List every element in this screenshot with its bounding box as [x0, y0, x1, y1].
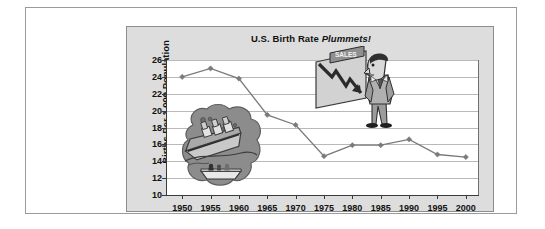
x-axis-tick-label: 1955 [201, 203, 221, 213]
page-frame: U.S. Birth Rate Plummets! Births Per 1,0… [25, 7, 517, 214]
data-point-marker [208, 66, 213, 71]
chart-panel: U.S. Birth Rate Plummets! Births Per 1,0… [126, 26, 494, 212]
x-axis-tick-label: 1995 [427, 203, 447, 213]
x-axis-tick-label: 1950 [172, 203, 192, 213]
x-axis-tick-label: 1960 [229, 203, 249, 213]
data-point-marker [406, 137, 411, 142]
y-axis-tick-label: 22 [152, 89, 162, 99]
birth-rate-line-series [166, 60, 479, 196]
screenshot-canvas: U.S. Birth Rate Plummets! Births Per 1,0… [0, 0, 545, 229]
chart-title-plain: U.S. Birth Rate [251, 33, 319, 44]
y-axis-tick-label: 24 [152, 72, 162, 82]
data-point-marker [180, 74, 185, 79]
x-axis-tick-label: 1965 [257, 203, 277, 213]
y-axis-tick-label: 20 [152, 106, 162, 116]
x-axis-tick-label: 1990 [399, 203, 419, 213]
y-axis-tick-labels: 262422201816141210 [141, 60, 162, 196]
sales-banner-label: SALES [335, 51, 357, 58]
chart-title: U.S. Birth Rate Plummets! [127, 33, 495, 44]
data-point-marker [435, 152, 440, 157]
x-axis-tick-label: 2000 [456, 203, 476, 213]
y-axis-tick-label: 12 [152, 173, 162, 183]
y-axis-tick-label: 14 [152, 156, 162, 166]
x-axis-tick-label: 1970 [286, 203, 306, 213]
plot-area: 1950195519601965197019751980198519901995… [166, 60, 478, 195]
x-axis-tick-label: 1975 [314, 203, 334, 213]
y-axis-tick-label: 26 [152, 55, 162, 65]
y-axis-tick-label: 16 [152, 139, 162, 149]
data-point-marker [350, 143, 355, 148]
data-point-marker [378, 143, 383, 148]
x-axis-tick-label: 1985 [371, 203, 391, 213]
y-axis-tick-label: 18 [152, 123, 162, 133]
series-line [182, 68, 466, 157]
x-axis-tick-label: 1980 [342, 203, 362, 213]
y-axis-tick-label: 10 [152, 190, 162, 200]
chart-title-emphasis: Plummets! [322, 33, 371, 44]
data-point-marker [463, 154, 468, 159]
